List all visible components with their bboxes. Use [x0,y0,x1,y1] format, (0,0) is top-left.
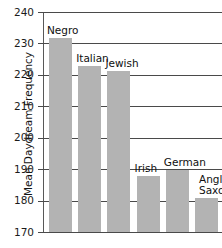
y-axis-tick [38,169,44,170]
y-axis-tick-label: 200 [0,132,34,143]
bar-label: German [164,157,206,168]
y-axis-tick-label: 190 [0,164,34,175]
chart-container: · · · · NegroItalianJewishIrishGermanAng… [0,0,222,248]
bar-negro[interactable] [49,38,72,233]
bar-german[interactable] [166,170,189,233]
y-axis-tick-label: 180 [0,195,34,206]
y-axis-tick [38,106,44,107]
bar-label: Anglo-Saxon [199,174,222,195]
gridline [44,12,222,13]
y-axis-tick-label: 170 [0,227,34,238]
bar-italian[interactable] [78,66,101,233]
bar-label: Italian [76,53,109,64]
bar-anglo-saxon[interactable] [195,198,218,233]
bar-irish[interactable] [137,176,160,233]
plot-area: NegroItalianJewishIrishGermanAnglo-Saxon [44,0,222,248]
y-axis-tick-label: 210 [0,101,34,112]
y-axis-tick [38,43,44,44]
y-axis-tick [38,75,44,76]
y-axis-tick [38,138,44,139]
bar-jewish[interactable] [107,71,130,233]
y-axis-tick [38,12,44,13]
y-axis-tick [38,232,44,233]
bar-label: Negro [47,25,79,36]
y-axis-tick-label: 220 [0,69,34,80]
y-axis-tick-label: 240 [0,7,34,18]
bar-label: Irish [135,163,157,174]
bar-label: Jewish [105,58,138,69]
y-axis-tick [38,201,44,202]
y-axis-tick-label: 230 [0,38,34,49]
